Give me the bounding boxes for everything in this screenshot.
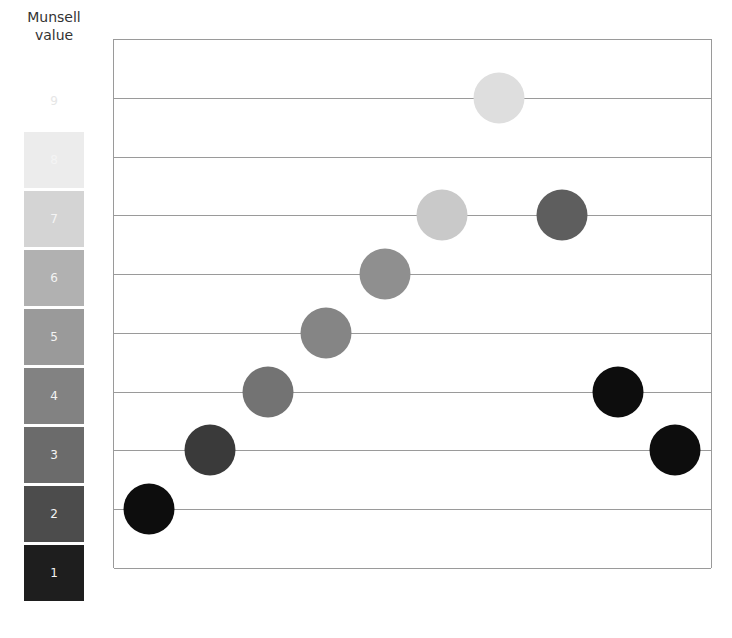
legend-title-line1: Munsell xyxy=(14,8,94,26)
data-point xyxy=(360,249,411,300)
data-point xyxy=(417,190,468,241)
legend-title: Munsell value xyxy=(14,8,94,44)
gridline xyxy=(114,157,711,158)
swatch-value-3: 3 xyxy=(24,427,84,483)
gridline xyxy=(114,333,711,334)
swatch-label: 2 xyxy=(50,507,58,521)
swatch-value-9: 9 xyxy=(24,73,84,129)
gridline xyxy=(114,274,711,275)
swatch-label: 5 xyxy=(50,330,58,344)
data-point xyxy=(124,484,175,535)
data-point xyxy=(185,425,236,476)
swatch-value-5: 5 xyxy=(24,309,84,365)
swatch-label: 3 xyxy=(50,448,58,462)
swatch-value-6: 6 xyxy=(24,250,84,306)
swatch-label: 1 xyxy=(50,566,58,580)
gridline xyxy=(114,509,711,510)
data-point xyxy=(474,73,525,124)
gridline xyxy=(114,215,711,216)
gridline xyxy=(114,568,711,569)
swatch-label: 8 xyxy=(50,153,58,167)
swatch-value-8: 8 xyxy=(24,132,84,188)
data-point xyxy=(301,308,352,359)
swatch-value-4: 4 xyxy=(24,368,84,424)
data-point xyxy=(537,190,588,241)
swatch-value-1: 1 xyxy=(24,545,84,601)
swatch-label: 6 xyxy=(50,271,58,285)
swatch-value-7: 7 xyxy=(24,191,84,247)
data-point xyxy=(650,425,701,476)
swatch-label: 7 xyxy=(50,212,58,226)
gridline xyxy=(114,39,711,40)
data-point xyxy=(243,367,294,418)
legend-title-line2: value xyxy=(14,26,94,44)
swatch-label: 9 xyxy=(50,94,58,108)
swatch-value-2: 2 xyxy=(24,486,84,542)
swatch-label: 4 xyxy=(50,389,58,403)
gridline xyxy=(114,98,711,99)
plot-area xyxy=(113,39,712,568)
data-point xyxy=(593,367,644,418)
